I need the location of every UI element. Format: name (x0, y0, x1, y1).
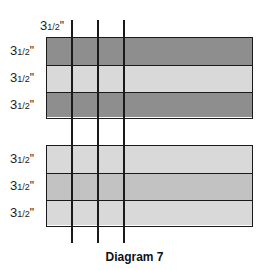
label-unit: " (30, 71, 34, 85)
label-unit: " (30, 44, 34, 58)
label-fraction: 1/2 (17, 182, 30, 192)
cut-line (97, 20, 99, 243)
label-unit: " (30, 206, 34, 220)
label-unit: " (60, 19, 64, 33)
row-label: 31/2" (10, 99, 34, 112)
row-label: 31/2" (10, 72, 34, 85)
row-label: 31/2" (10, 45, 34, 58)
label-fraction: 1/2 (17, 209, 30, 219)
row-label: 31/2" (10, 180, 34, 193)
label-fraction: 1/2 (17, 155, 30, 165)
upper-strip-set (46, 37, 253, 119)
label-fraction: 1/2 (47, 22, 60, 32)
strip-dark (47, 38, 252, 65)
row-label: 31/2" (10, 153, 34, 166)
strip-light (47, 200, 252, 225)
strip-light (47, 65, 252, 92)
cut-line (71, 20, 73, 243)
strip-medium (47, 173, 252, 200)
label-fraction: 1/2 (17, 101, 30, 111)
label-unit: " (30, 152, 34, 166)
row-label: 31/2" (10, 207, 34, 220)
strip-dark (47, 92, 252, 117)
strip-light (47, 146, 252, 173)
column-width-label: 31/2" (40, 20, 64, 33)
lower-strip-set (46, 145, 253, 227)
label-fraction: 1/2 (17, 74, 30, 84)
diagram-caption: Diagram 7 (0, 250, 269, 264)
label-unit: " (30, 179, 34, 193)
label-unit: " (30, 98, 34, 112)
label-fraction: 1/2 (17, 47, 30, 57)
cut-line (123, 20, 125, 243)
